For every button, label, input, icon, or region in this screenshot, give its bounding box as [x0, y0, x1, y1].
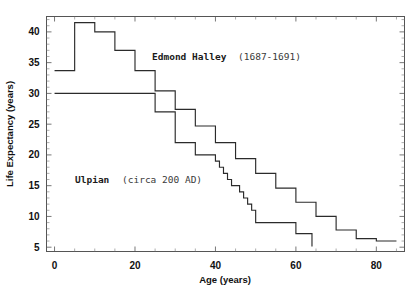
series-line-ulpian [55, 93, 312, 246]
annotation-ulpian-era: (circa 200 AD) [122, 174, 202, 185]
y-axis-tick-labels: 510152025303540 [28, 26, 40, 252]
chart-figure: 510152025303540 020406080 Life Expectanc… [0, 0, 419, 289]
y-axis-title: Life Expectancy (years) [4, 81, 15, 187]
y-tick-label: 20 [28, 149, 40, 160]
y-tick-label: 5 [34, 242, 40, 253]
annotation-halley: Edmond Halley (1687-1691) [152, 51, 301, 62]
x-tick-label: 60 [290, 260, 302, 271]
x-tick-label: 0 [52, 260, 58, 271]
x-axis-minor-ticks [75, 17, 397, 252]
annotation-ulpian: Ulpian (circa 200 AD) [75, 174, 202, 185]
x-tick-label: 40 [210, 260, 222, 271]
y-tick-label: 30 [28, 88, 40, 99]
y-tick-label: 25 [28, 119, 40, 130]
x-axis-title: Age (years) [199, 274, 251, 285]
y-axis-major-ticks [47, 32, 405, 247]
life-expectancy-chart: 510152025303540 020406080 Life Expectanc… [0, 0, 419, 289]
y-tick-label: 40 [28, 26, 40, 37]
x-tick-label: 20 [129, 260, 141, 271]
x-axis-tick-labels: 020406080 [52, 260, 383, 271]
annotation-halley-name: Edmond Halley [152, 51, 227, 62]
y-tick-label: 35 [28, 57, 40, 68]
x-tick-label: 80 [371, 260, 383, 271]
annotation-ulpian-name: Ulpian [75, 174, 109, 185]
y-tick-label: 10 [28, 211, 40, 222]
annotation-halley-dates: (1687-1691) [238, 51, 301, 62]
y-tick-label: 15 [28, 180, 40, 191]
